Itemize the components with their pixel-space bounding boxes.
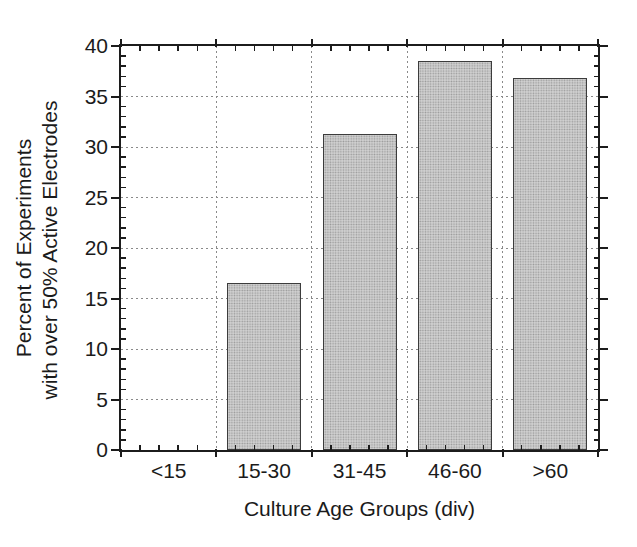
x-major-tick-top: [406, 39, 408, 47]
y-major-tick-left: [111, 45, 119, 47]
x-major-tick-bottom: [597, 449, 599, 457]
y-major-tick-right: [600, 449, 608, 451]
x-minor-tick-bottom: [158, 445, 160, 450]
y-tick-label: 0: [42, 439, 108, 461]
y-minor-tick-right: [594, 65, 598, 67]
y-minor-tick-left: [121, 409, 126, 411]
x-minor-tick-top: [426, 46, 428, 51]
y-minor-tick-right: [594, 237, 598, 239]
x-major-tick-bottom: [406, 449, 408, 457]
y-minor-tick-left: [121, 389, 126, 391]
y-major-tick-left: [111, 96, 119, 98]
y-minor-tick-left: [121, 308, 126, 310]
y-minor-tick-right: [594, 288, 598, 290]
x-minor-tick-top: [559, 46, 561, 51]
y-minor-tick-right: [594, 389, 598, 391]
x-minor-tick-top: [139, 46, 141, 51]
y-minor-tick-right: [594, 217, 598, 219]
y-minor-tick-left: [121, 86, 126, 88]
x-minor-tick-top: [445, 46, 447, 51]
x-minor-tick-bottom: [445, 445, 447, 450]
x-minor-tick-top: [254, 46, 256, 51]
x-major-tick-top: [311, 39, 313, 47]
y-major-tick-left: [111, 197, 119, 199]
x-minor-tick-bottom: [139, 445, 141, 450]
gridline-vertical: [311, 46, 312, 450]
y-minor-tick-left: [121, 278, 126, 280]
x-minor-tick-bottom: [387, 445, 389, 450]
y-major-tick-left: [111, 146, 119, 148]
x-minor-tick-top: [292, 46, 294, 51]
x-major-tick-bottom: [120, 449, 122, 457]
bar-31-45: [323, 134, 397, 450]
x-minor-tick-top: [197, 46, 199, 51]
y-major-tick-right: [600, 146, 608, 148]
x-minor-tick-bottom: [521, 445, 523, 450]
x-category-label: 46-60: [400, 460, 510, 482]
gridline-vertical: [407, 46, 408, 450]
y-major-tick-right: [600, 399, 608, 401]
x-minor-tick-top: [578, 46, 580, 51]
y-minor-tick-left: [121, 207, 126, 209]
x-minor-tick-top: [521, 46, 523, 51]
y-minor-tick-left: [121, 328, 126, 330]
y-minor-tick-left: [121, 136, 126, 138]
x-major-tick-top: [120, 39, 122, 47]
y-major-tick-right: [600, 45, 608, 47]
y-minor-tick-left: [121, 358, 126, 360]
y-minor-tick-right: [594, 267, 598, 269]
x-minor-tick-top: [235, 46, 237, 51]
gridline-vertical: [216, 46, 217, 450]
y-minor-tick-left: [121, 419, 126, 421]
y-minor-tick-right: [594, 76, 598, 78]
x-minor-tick-top: [483, 46, 485, 51]
y-minor-tick-right: [594, 177, 598, 179]
bar-46-60: [418, 61, 492, 450]
x-major-tick-bottom: [215, 449, 217, 457]
y-minor-tick-left: [121, 177, 126, 179]
y-minor-tick-left: [121, 126, 126, 128]
y-minor-tick-left: [121, 368, 126, 370]
x-minor-tick-top: [368, 46, 370, 51]
x-minor-tick-top: [387, 46, 389, 51]
y-minor-tick-left: [121, 116, 126, 118]
y-minor-tick-right: [594, 379, 598, 381]
y-major-tick-right: [600, 197, 608, 199]
y-minor-tick-left: [121, 166, 126, 168]
y-major-tick-left: [111, 399, 119, 401]
y-minor-tick-left: [121, 106, 126, 108]
x-minor-tick-bottom: [273, 445, 275, 450]
x-minor-tick-bottom: [559, 445, 561, 450]
y-minor-tick-right: [594, 409, 598, 411]
x-minor-tick-bottom: [254, 445, 256, 450]
x-minor-tick-top: [177, 46, 179, 51]
y-minor-tick-right: [594, 439, 598, 441]
x-minor-tick-bottom: [578, 445, 580, 450]
y-minor-tick-right: [594, 106, 598, 108]
bar-15-30: [227, 283, 301, 450]
x-minor-tick-top: [464, 46, 466, 51]
y-minor-tick-right: [594, 86, 598, 88]
x-minor-tick-bottom: [330, 445, 332, 450]
y-minor-tick-left: [121, 318, 126, 320]
y-minor-tick-left: [121, 257, 126, 259]
y-major-tick-left: [111, 247, 119, 249]
y-major-tick-right: [600, 247, 608, 249]
bar->60: [513, 78, 587, 450]
y-minor-tick-right: [594, 429, 598, 431]
x-minor-tick-bottom: [292, 445, 294, 450]
y-minor-tick-right: [594, 166, 598, 168]
x-minor-tick-bottom: [426, 445, 428, 450]
plot-area: [119, 44, 600, 452]
x-major-tick-top: [502, 39, 504, 47]
y-minor-tick-left: [121, 267, 126, 269]
y-minor-tick-left: [121, 55, 126, 57]
x-category-label: >60: [495, 460, 605, 482]
x-minor-tick-bottom: [540, 445, 542, 450]
y-minor-tick-right: [594, 419, 598, 421]
y-minor-tick-left: [121, 439, 126, 441]
y-minor-tick-left: [121, 338, 126, 340]
y-major-tick-right: [600, 298, 608, 300]
y-minor-tick-left: [121, 237, 126, 239]
x-minor-tick-bottom: [464, 445, 466, 450]
